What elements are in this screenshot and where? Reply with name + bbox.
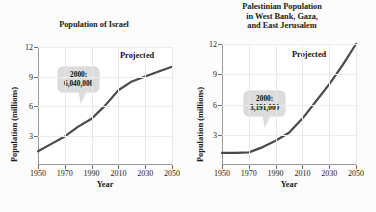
chart-panel-israel: Population of Israel Projected 2000: 6,0… bbox=[0, 0, 188, 212]
x-axis-title-israel: Year bbox=[38, 180, 172, 189]
figure-canvas: Population of Israel Projected 2000: 6,0… bbox=[0, 0, 376, 212]
gridline-horizontal bbox=[38, 77, 172, 78]
y-tick-label: 9 bbox=[29, 72, 33, 81]
chart-title-line3: and East Jerusalem bbox=[188, 21, 376, 31]
chart-title-line2: in West Bank, Gaza, bbox=[188, 12, 376, 22]
x-tick-label: 1950 bbox=[30, 169, 46, 178]
chart-title-line1: Palestinian Population bbox=[188, 2, 376, 12]
plot-area-palestinian: Projected 2000: 3,191,000 Year 195019701… bbox=[222, 44, 356, 165]
y-axis-title-palestinian: Population (millions) bbox=[196, 87, 205, 162]
x-tick-label: 1970 bbox=[241, 169, 257, 178]
x-tick-label: 2050 bbox=[348, 169, 364, 178]
x-tick-label: 2050 bbox=[164, 169, 180, 178]
gridline-horizontal bbox=[38, 136, 172, 137]
y-tick-mark bbox=[34, 136, 38, 137]
callout-line2: 6,040,000 bbox=[64, 79, 93, 88]
y-tick-mark bbox=[218, 135, 222, 136]
y-tick-label: 12 bbox=[25, 43, 33, 52]
gridline-horizontal bbox=[38, 47, 172, 48]
x-tick-label: 2030 bbox=[321, 169, 337, 178]
y-tick-mark bbox=[34, 106, 38, 107]
gridline-horizontal bbox=[222, 135, 356, 136]
x-axis-title-palestinian: Year bbox=[222, 180, 356, 189]
y-tick-mark bbox=[218, 44, 222, 45]
y-axis-title-israel: Population (millions) bbox=[10, 87, 19, 162]
y-tick-mark bbox=[34, 47, 38, 48]
gridline-horizontal bbox=[38, 106, 172, 107]
x-tick-label: 1990 bbox=[84, 169, 100, 178]
y-tick-label: 6 bbox=[213, 100, 217, 109]
x-tick-label: 1950 bbox=[214, 169, 230, 178]
gridline-vertical bbox=[172, 47, 173, 165]
chart-panel-palestinian: Palestinian Population in West Bank, Gaz… bbox=[188, 0, 376, 212]
y-tick-label: 6 bbox=[29, 102, 33, 111]
y-tick-label: 3 bbox=[29, 131, 33, 140]
y-tick-mark bbox=[218, 74, 222, 75]
projected-label-israel: Projected bbox=[120, 51, 154, 60]
x-tick-label: 1990 bbox=[268, 169, 284, 178]
x-tick-label: 1970 bbox=[57, 169, 73, 178]
y-tick-label: 3 bbox=[213, 130, 217, 139]
callout-palestinian: 2000: 3,191,000 bbox=[244, 91, 285, 116]
y-tick-mark bbox=[218, 105, 222, 106]
callout-line1: 2000: bbox=[64, 70, 93, 79]
projected-label-palestinian: Projected bbox=[292, 50, 326, 59]
gridline-horizontal bbox=[222, 105, 356, 106]
x-tick-label: 2010 bbox=[110, 169, 126, 178]
gridline-horizontal bbox=[222, 74, 356, 75]
x-tick-label: 2030 bbox=[137, 169, 153, 178]
y-tick-mark bbox=[34, 77, 38, 78]
gridline-horizontal bbox=[222, 44, 356, 45]
plot-area-israel: Projected 2000: 6,040,000 Year 195019701… bbox=[38, 47, 172, 165]
chart-title-palestinian: Palestinian Population in West Bank, Gaz… bbox=[188, 2, 376, 31]
gridline-vertical bbox=[356, 44, 357, 165]
y-tick-label: 9 bbox=[213, 70, 217, 79]
y-tick-label: 12 bbox=[209, 40, 217, 49]
x-tick-label: 2010 bbox=[294, 169, 310, 178]
chart-title-israel: Population of Israel bbox=[0, 20, 188, 30]
